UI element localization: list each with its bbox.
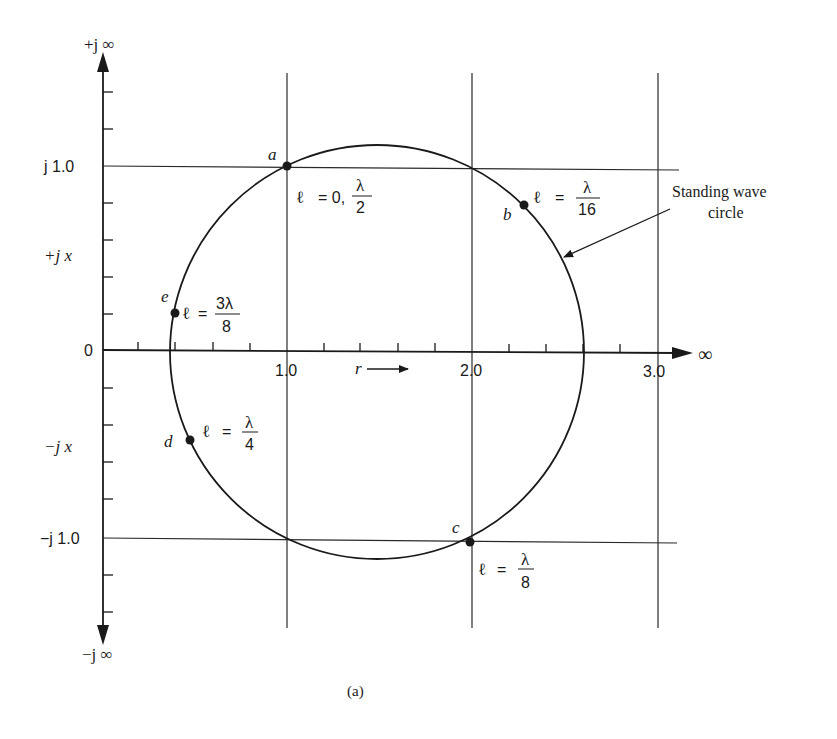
standing-wave-diagram: +j ∞ −j ∞ +j x −j x j 1.0 0 −j 1.0 1.0 2…	[0, 0, 837, 739]
tick-label-r2: 2.0	[460, 362, 482, 379]
svg-text:=: =	[497, 561, 506, 578]
svg-text:b: b	[503, 205, 512, 224]
arrow-right-icon	[672, 347, 693, 359]
svg-text:d: d	[164, 432, 173, 451]
svg-text:ℓ: ℓ	[533, 188, 541, 207]
arrow-down-icon	[97, 625, 109, 645]
label-neg-jx: −j x	[44, 437, 72, 456]
svg-text:8: 8	[521, 574, 530, 591]
label-top-infinity: +j ∞	[84, 35, 115, 54]
svg-text:8: 8	[222, 318, 231, 335]
svg-text:= 0,: = 0,	[318, 189, 345, 206]
label-bottom-infinity: −j ∞	[82, 645, 113, 664]
svg-text:λ: λ	[583, 178, 592, 197]
svg-text:=: =	[222, 423, 231, 440]
label-r: r	[355, 359, 362, 378]
arrow-up-icon	[97, 52, 109, 72]
svg-text:ℓ: ℓ	[296, 188, 304, 207]
svg-text:ℓ: ℓ	[182, 304, 190, 323]
point-a	[283, 162, 292, 171]
vertical-ticks	[103, 92, 113, 612]
svg-text:ℓ: ℓ	[202, 422, 210, 441]
point-c-label: c ℓ = λ 8	[452, 518, 534, 591]
grid-hline-pos-j1	[103, 166, 679, 170]
label-pos-jx: +j x	[44, 246, 72, 265]
point-a-label: a ℓ = 0, λ 2	[268, 145, 372, 216]
vertical-axis	[97, 52, 113, 645]
svg-text:3λ: 3λ	[216, 295, 233, 312]
point-c	[466, 538, 475, 547]
grid-hline-neg-j1	[103, 538, 677, 543]
label-horizontal-infinity: ∞	[698, 343, 712, 365]
svg-text:16: 16	[578, 201, 596, 218]
figure-caption: (a)	[347, 683, 364, 700]
svg-text:2: 2	[356, 199, 365, 216]
annotation-line2: circle	[708, 204, 744, 221]
svg-text:e: e	[161, 287, 169, 306]
tick-label-r1: 1.0	[275, 362, 297, 379]
svg-text:λ: λ	[521, 550, 530, 569]
tick-label-r3: 3.0	[643, 363, 665, 380]
svg-text:λ: λ	[356, 176, 365, 195]
points	[171, 162, 529, 547]
point-d-label: d ℓ = λ 4	[164, 413, 258, 453]
point-e	[171, 309, 180, 318]
svg-text:λ: λ	[245, 413, 254, 432]
point-b	[520, 201, 529, 210]
svg-text:=: =	[555, 189, 564, 206]
tick-label-zero: 0	[84, 342, 93, 359]
svg-text:=: =	[198, 305, 207, 322]
svg-text:c: c	[452, 518, 460, 537]
svg-text:ℓ: ℓ	[478, 560, 486, 579]
svg-text:4: 4	[245, 436, 254, 453]
point-d	[186, 436, 195, 445]
tick-label-neg-j1: −j 1.0	[40, 530, 80, 547]
annotation-line1: Standing wave	[672, 183, 767, 201]
tick-label-j1: j 1.0	[43, 158, 74, 175]
svg-text:a: a	[268, 145, 277, 164]
horizontal-axis	[103, 342, 693, 359]
